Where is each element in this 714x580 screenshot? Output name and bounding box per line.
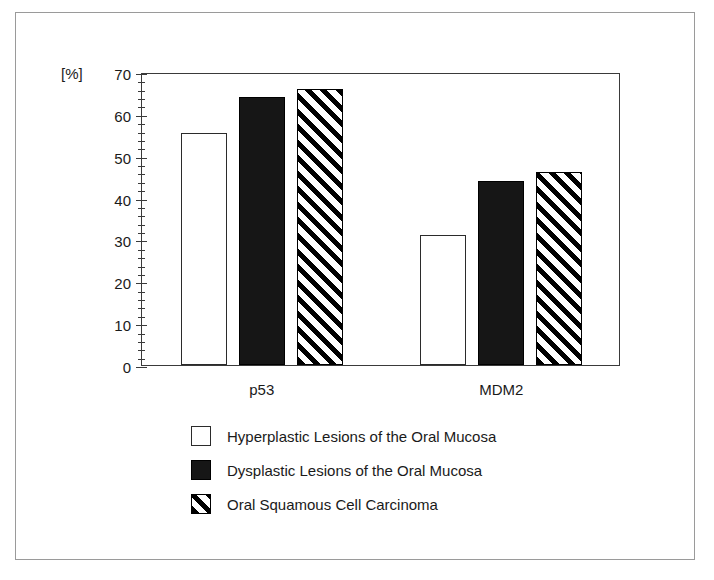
y-axis-unit-label: [%] bbox=[61, 66, 83, 81]
bar-chart-figure: [%] 010203040506070 p53MDM2 Hyperplastic… bbox=[16, 13, 696, 561]
y-axis-minor-tick bbox=[138, 342, 145, 343]
y-axis-minor-tick bbox=[138, 250, 145, 251]
legend-swatch-hatch bbox=[191, 494, 211, 514]
y-axis-major-tick bbox=[136, 367, 147, 368]
y-axis-minor-tick bbox=[138, 225, 145, 226]
y-axis-minor-tick bbox=[138, 91, 145, 92]
y-axis-major-tick bbox=[136, 325, 147, 326]
legend-item: Hyperplastic Lesions of the Oral Mucosa bbox=[191, 419, 496, 453]
y-axis-minor-tick bbox=[138, 208, 145, 209]
y-axis-minor-tick bbox=[138, 308, 145, 309]
y-axis-minor-tick bbox=[138, 133, 145, 134]
y-axis-minor-tick bbox=[138, 124, 145, 125]
y-axis-minor-tick bbox=[138, 82, 145, 83]
y-axis-minor-tick bbox=[138, 258, 145, 259]
y-axis-minor-tick bbox=[138, 183, 145, 184]
y-axis-minor-tick bbox=[138, 99, 145, 100]
y-axis-minor-tick bbox=[138, 300, 145, 301]
y-axis-minor-tick bbox=[138, 149, 145, 150]
bar bbox=[536, 172, 582, 365]
y-axis-major-tick bbox=[136, 74, 147, 75]
bar bbox=[239, 97, 285, 365]
y-axis-minor-tick bbox=[138, 292, 145, 293]
y-axis-tick-label: 30 bbox=[114, 234, 131, 249]
y-axis-tick-label: 0 bbox=[123, 360, 131, 375]
legend-swatch-open bbox=[191, 426, 211, 446]
y-axis-minor-tick bbox=[138, 141, 145, 142]
y-axis-minor-tick bbox=[138, 191, 145, 192]
y-axis-minor-tick bbox=[138, 359, 145, 360]
y-axis-minor-tick bbox=[138, 317, 145, 318]
y-axis-major-tick bbox=[136, 116, 147, 117]
x-axis-category-label: p53 bbox=[249, 382, 274, 397]
bar bbox=[181, 133, 227, 365]
y-axis-tick-label: 50 bbox=[114, 150, 131, 165]
y-axis-tick-label: 40 bbox=[114, 192, 131, 207]
bar bbox=[297, 89, 343, 365]
y-axis-major-tick bbox=[136, 158, 147, 159]
x-axis-category-label: MDM2 bbox=[479, 382, 523, 397]
y-axis-minor-tick bbox=[138, 334, 145, 335]
y-axis-minor-tick bbox=[138, 107, 145, 108]
chart-legend: Hyperplastic Lesions of the Oral MucosaD… bbox=[191, 419, 496, 521]
bar bbox=[420, 235, 466, 365]
y-axis-minor-tick bbox=[138, 216, 145, 217]
legend-label: Hyperplastic Lesions of the Oral Mucosa bbox=[227, 429, 496, 444]
y-axis-tick-label: 70 bbox=[114, 67, 131, 82]
y-axis-minor-tick bbox=[138, 275, 145, 276]
y-axis-minor-tick bbox=[138, 174, 145, 175]
y-axis-minor-tick bbox=[138, 267, 145, 268]
y-axis-major-tick bbox=[136, 241, 147, 242]
y-axis-minor-tick bbox=[138, 166, 145, 167]
y-axis-minor-tick bbox=[138, 350, 145, 351]
y-axis-major-tick bbox=[136, 200, 147, 201]
legend-label: Oral Squamous Cell Carcinoma bbox=[227, 497, 438, 512]
y-axis-tick-label: 20 bbox=[114, 276, 131, 291]
y-axis-tick-label: 60 bbox=[114, 108, 131, 123]
legend-label: Dysplastic Lesions of the Oral Mucosa bbox=[227, 463, 482, 478]
legend-item: Oral Squamous Cell Carcinoma bbox=[191, 487, 496, 521]
legend-swatch-solid bbox=[191, 460, 211, 480]
bar bbox=[478, 181, 524, 365]
legend-item: Dysplastic Lesions of the Oral Mucosa bbox=[191, 453, 496, 487]
plot-area: 010203040506070 p53MDM2 bbox=[141, 73, 620, 366]
y-axis-tick-label: 10 bbox=[114, 318, 131, 333]
y-axis-major-tick bbox=[136, 283, 147, 284]
y-axis-minor-tick bbox=[138, 233, 145, 234]
figure-outer-frame: [%] 010203040506070 p53MDM2 Hyperplastic… bbox=[15, 12, 695, 560]
